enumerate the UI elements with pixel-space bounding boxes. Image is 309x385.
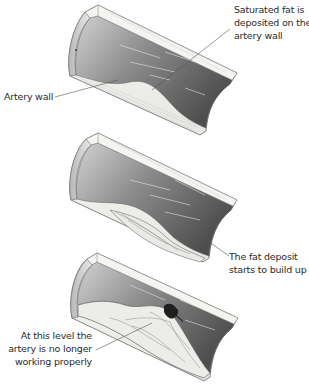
artery-wall-label: Artery wall — [4, 90, 53, 103]
artery-diagram — [0, 0, 309, 385]
label-line: Saturated fat is — [234, 3, 309, 16]
artery-stage-3 — [71, 253, 238, 381]
label-line: artery wall — [234, 29, 309, 42]
artery-stage-2 — [70, 133, 237, 262]
artery-stage-1 — [69, 5, 237, 135]
label-line: deposited on the — [234, 16, 309, 29]
label-line: artery is no longer — [4, 342, 92, 355]
saturated-fat-label: Saturated fat is deposited on the artery… — [234, 3, 309, 42]
label-line: working properly — [4, 355, 92, 368]
label-line: The fat deposit — [229, 250, 306, 263]
label-line: At this level the — [4, 329, 92, 342]
label-line: starts to build up — [229, 263, 306, 276]
label-line: Artery wall — [4, 90, 53, 103]
fat-deposit-label: The fat deposit starts to build up — [229, 250, 306, 276]
artery-blocked-label: At this level the artery is no longer wo… — [4, 329, 92, 368]
fat-deposit-leader — [208, 241, 229, 256]
